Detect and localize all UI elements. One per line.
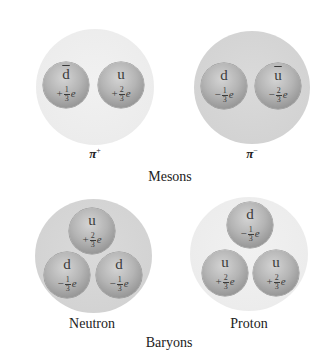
quark-name: d xyxy=(96,257,142,272)
quark-up: u +23e xyxy=(98,62,144,108)
quark-charge: −13e xyxy=(201,85,247,104)
quark-anti-up: u −23e xyxy=(255,63,301,109)
quark-charge: −13e xyxy=(44,274,90,293)
quark-up: u +23e xyxy=(253,250,299,296)
quark-up: u +23e xyxy=(202,250,248,296)
baryons-group-label: Baryons xyxy=(146,335,193,351)
quark-down: d −13e xyxy=(96,252,142,298)
quark-charge: −13e xyxy=(227,224,273,243)
quark-charge: +23e xyxy=(202,272,248,291)
quark-down: d −13e xyxy=(44,252,90,298)
quark-name: u xyxy=(202,255,248,270)
quark-down: d −13e xyxy=(227,202,273,248)
quark-name: d xyxy=(201,68,247,83)
quark-charge: +23e xyxy=(98,84,144,103)
quark-name: u xyxy=(69,213,115,228)
quark-name: d xyxy=(227,207,273,222)
quark-charge: −13e xyxy=(96,274,142,293)
quark-anti-down: d +13e xyxy=(43,62,89,108)
quark-charge: +23e xyxy=(253,272,299,291)
pi-minus-label: π− xyxy=(246,146,258,162)
quark-name: u xyxy=(255,68,301,83)
quark-name: d xyxy=(44,257,90,272)
quark-name: u xyxy=(98,67,144,82)
neutron-label: Neutron xyxy=(69,316,115,332)
pi-plus-label: π+ xyxy=(89,146,101,162)
proton-label: Proton xyxy=(230,316,267,332)
quark-charge: −23e xyxy=(255,85,301,104)
quark-name: u xyxy=(253,255,299,270)
mesons-group-label: Mesons xyxy=(148,169,192,185)
quark-up: u +23e xyxy=(69,208,115,254)
quark-charge: +23e xyxy=(69,230,115,249)
quark-charge: +13e xyxy=(43,84,89,103)
quark-name: d xyxy=(43,67,89,82)
quark-down: d −13e xyxy=(201,63,247,109)
